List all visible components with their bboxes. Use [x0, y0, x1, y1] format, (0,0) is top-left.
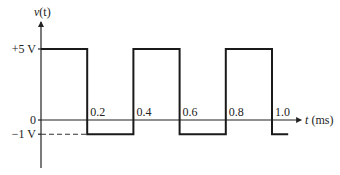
- x-tick-label: 0.6: [183, 105, 198, 119]
- y-tick-label: +5 V: [12, 42, 37, 56]
- x-tick-label: 0.4: [136, 105, 151, 119]
- x-axis-label: t (ms): [305, 113, 333, 127]
- y-axis-label: v(t): [34, 5, 51, 19]
- x-tick-label: 0.2: [90, 105, 105, 119]
- square-wave-series: [41, 49, 288, 134]
- square-wave-chart: +5 V0−1 V0.20.40.60.81.0v(t)t (ms): [0, 0, 340, 175]
- y-tick-label: 0: [30, 113, 36, 127]
- y-tick-label: −1 V: [12, 127, 37, 141]
- x-tick-label: 0.8: [229, 105, 244, 119]
- x-tick-label: 1.0: [275, 105, 290, 119]
